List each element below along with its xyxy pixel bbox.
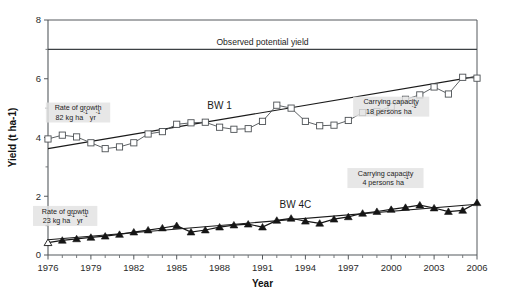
- yield-trend-chart: 0246819761979198219851988199119941997200…: [0, 0, 523, 297]
- data-point-marker: [431, 84, 437, 90]
- data-point-marker: [145, 131, 151, 137]
- data-point-marker: [445, 91, 451, 97]
- label-bw4c: BW 4C: [280, 199, 312, 210]
- data-point-marker: [74, 134, 80, 140]
- data-point-marker: [345, 117, 351, 123]
- data-point-marker: [245, 126, 251, 132]
- chart-figure: 0246819761979198219851988199119941997200…: [0, 0, 523, 297]
- data-point-marker: [317, 123, 323, 129]
- y-tick-label: 8: [36, 14, 41, 25]
- data-point-marker: [288, 105, 294, 111]
- y-tick-label: 4: [36, 132, 41, 143]
- x-tick-label: 1994: [295, 262, 316, 273]
- data-point-marker: [217, 124, 223, 130]
- y-tick-label: 6: [36, 73, 41, 84]
- x-axis-title: Year: [252, 278, 273, 289]
- data-point-marker: [460, 74, 466, 80]
- data-point-marker: [259, 118, 265, 124]
- data-point-marker: [474, 75, 480, 81]
- x-tick-label: 1979: [80, 262, 101, 273]
- data-point-marker: [202, 119, 208, 125]
- annotation-capacity-bw1: Carrying capacity18 persons ha-1: [353, 97, 429, 117]
- data-point-marker: [274, 102, 280, 108]
- data-point-marker: [102, 146, 108, 152]
- data-point-marker: [188, 120, 194, 126]
- x-tick-label: 1988: [209, 262, 230, 273]
- data-point-marker: [231, 126, 237, 132]
- data-point-marker: [59, 132, 65, 138]
- data-point-marker: [302, 118, 308, 124]
- x-tick-label: 1976: [37, 262, 58, 273]
- data-point-marker: [116, 144, 122, 150]
- data-point-marker: [331, 122, 337, 128]
- data-point-marker: [45, 136, 51, 142]
- data-point-marker: [159, 129, 165, 135]
- observed-potential-yield-label: Observed potential yield: [216, 37, 308, 47]
- y-tick-label: 2: [36, 191, 41, 202]
- data-point-marker: [131, 140, 137, 146]
- label-bw1: BW 1: [207, 100, 232, 111]
- annotation-line-1: Rate of growth: [42, 207, 89, 216]
- annotation-line-1: Rate of growth: [55, 103, 102, 112]
- data-point-marker: [174, 121, 180, 127]
- y-axis-title: Yield (t ha-1): [7, 108, 18, 168]
- x-tick-label: 1991: [252, 262, 273, 273]
- x-tick-label: 1997: [338, 262, 359, 273]
- x-tick-label: 2003: [424, 262, 445, 273]
- x-tick-label: 1985: [166, 262, 187, 273]
- x-tick-label: 2006: [466, 262, 487, 273]
- annotation-rate-bw1: Rate of growth82 kg ha-1 yr-1: [46, 103, 110, 123]
- x-tick-label: 2000: [381, 262, 402, 273]
- annotation-rate-bw4c: Rate of growth23 kg ha-1 yr-1: [33, 206, 97, 226]
- annotation-capacity-bw4c: Carrying capacity4 persons ha-1: [347, 168, 423, 188]
- y-tick-label: 0: [36, 249, 41, 260]
- x-tick-label: 1982: [123, 262, 144, 273]
- data-point-marker: [88, 140, 94, 146]
